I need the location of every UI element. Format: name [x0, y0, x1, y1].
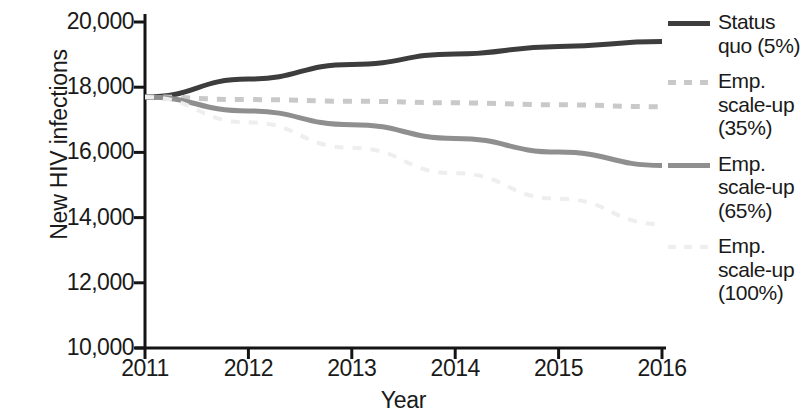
legend-line-swatch — [668, 245, 710, 249]
legend-line-swatch — [668, 163, 710, 168]
series-line-4 — [145, 97, 662, 224]
chart-legend: Status quo (5%)Emp. scale-up (35%)Emp. s… — [668, 10, 805, 317]
series-line-1 — [145, 42, 662, 97]
legend-line-swatch — [668, 80, 710, 85]
axis-lines — [135, 14, 666, 348]
chart-figure: New HIV infections 20,00018,00016,00014,… — [0, 0, 805, 417]
legend-entry-3: Emp. scale-up (65%) — [668, 152, 805, 223]
legend-label: Emp. scale-up (65%) — [718, 152, 805, 223]
legend-line-swatch — [668, 21, 710, 26]
legend-label: Emp. scale-up (35%) — [718, 69, 805, 140]
data-series-lines — [145, 42, 662, 225]
legend-entry-2: Emp. scale-up (35%) — [668, 69, 805, 140]
legend-label: Emp. scale-up (100%) — [718, 234, 805, 305]
legend-label: Status quo (5%) — [718, 10, 805, 57]
axis-ticks — [134, 22, 662, 359]
legend-entry-1: Status quo (5%) — [668, 10, 805, 57]
series-line-2 — [145, 97, 662, 107]
legend-entry-4: Emp. scale-up (100%) — [668, 234, 805, 305]
